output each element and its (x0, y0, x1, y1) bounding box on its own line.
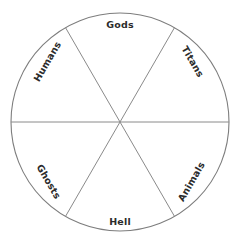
wheel-svg: Gods Titans Animals Hell Ghosts Humans (0, 0, 240, 243)
wheel-diagram: Gods Titans Animals Hell Ghosts Humans (0, 0, 240, 243)
sector-label-gods: Gods (106, 19, 134, 30)
sector-label-hell: Hell (109, 216, 131, 227)
